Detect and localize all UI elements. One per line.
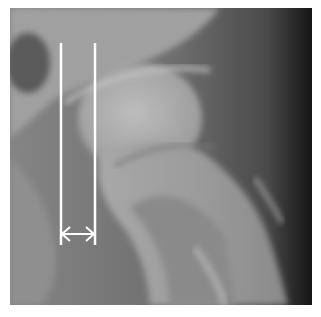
xray-image	[10, 8, 312, 305]
xray-canvas	[10, 8, 312, 305]
